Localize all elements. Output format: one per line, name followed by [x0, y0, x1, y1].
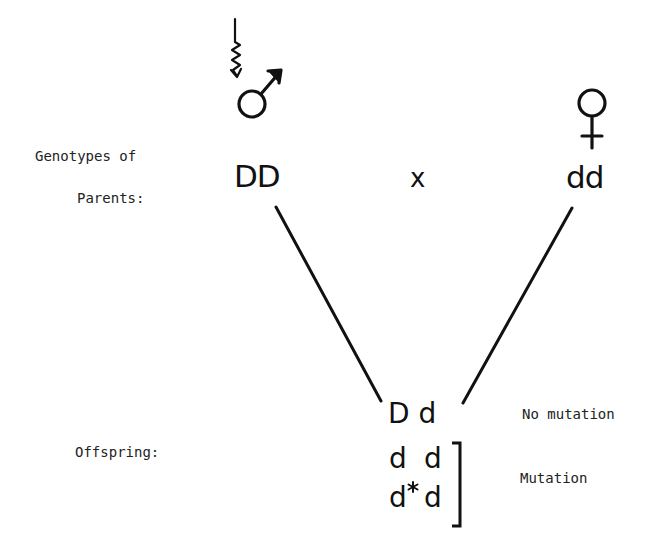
mutation-asterisk-icon: [409, 482, 418, 492]
female-to-offspring-line: [463, 208, 572, 403]
genotypes-of-label: Genotypes of: [35, 148, 136, 164]
offspring-label: Offspring:: [75, 444, 159, 460]
offspring-mutation-row2-left: d: [389, 484, 407, 512]
male-to-offspring-line: [276, 207, 381, 401]
genetic-cross-diagram: Genotypes of Parents: Offspring: DD x dd…: [0, 0, 654, 539]
female-symbol-icon: [579, 90, 605, 148]
cross-sign: x: [410, 162, 424, 194]
offspring-mutation-row1-right: d: [424, 445, 442, 473]
mutation-bracket: [452, 443, 460, 526]
female-genotype: dd: [566, 161, 603, 193]
mutation-annotation: Mutation: [520, 470, 587, 486]
parents-label: Parents:: [77, 190, 144, 206]
offspring-mutation-row2-right: d: [424, 484, 442, 512]
male-genotype: DD: [234, 160, 280, 192]
male-symbol-icon: [239, 70, 281, 117]
offspring-mutation-row1-left: d: [389, 445, 407, 473]
offspring-no-mutation-genotype: D d: [388, 400, 436, 428]
wavy-arrow-icon: [231, 19, 241, 77]
no-mutation-annotation: No mutation: [522, 406, 615, 422]
